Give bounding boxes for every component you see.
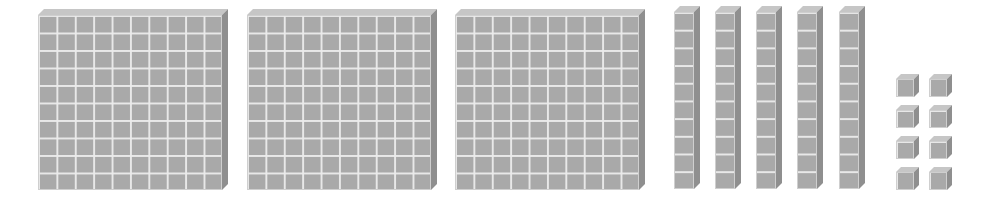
ten-rod-3-front-face xyxy=(756,12,776,189)
hundred-flat-2 xyxy=(247,9,437,190)
ten-rod-3 xyxy=(756,6,782,189)
one-unit-2-front-face xyxy=(929,79,947,97)
ten-rod-4-front-face xyxy=(797,12,817,189)
hundred-flat-3 xyxy=(455,9,645,190)
one-unit-8-front-face xyxy=(929,172,947,190)
hundred-flat-3-front-face xyxy=(455,15,639,190)
ten-rod-4-side-face xyxy=(817,6,823,189)
hundred-flat-1-side-face xyxy=(222,9,228,190)
one-unit-7 xyxy=(896,167,919,190)
hundred-flat-2-front-face xyxy=(247,15,431,190)
ten-rod-5 xyxy=(839,6,865,189)
ten-rod-5-side-face xyxy=(859,6,865,189)
ten-rod-5-front-face xyxy=(839,12,859,189)
one-unit-6 xyxy=(929,136,952,159)
one-unit-8 xyxy=(929,167,952,190)
ten-rod-3-side-face xyxy=(776,6,782,189)
one-unit-5 xyxy=(896,136,919,159)
hundred-flat-2-side-face xyxy=(431,9,437,190)
ten-rod-2 xyxy=(715,6,741,189)
hundred-flat-1 xyxy=(38,9,228,190)
one-unit-3 xyxy=(896,105,919,128)
ten-rod-4 xyxy=(797,6,823,189)
ten-rod-2-front-face xyxy=(715,12,735,189)
one-unit-1 xyxy=(896,74,919,97)
ten-rod-2-side-face xyxy=(735,6,741,189)
one-unit-4 xyxy=(929,105,952,128)
hundred-flat-3-side-face xyxy=(639,9,645,190)
one-unit-4-front-face xyxy=(929,110,947,128)
ten-rod-1 xyxy=(674,6,700,189)
one-unit-3-front-face xyxy=(896,110,914,128)
ten-rod-1-front-face xyxy=(674,12,694,189)
hundred-flat-1-front-face xyxy=(38,15,222,190)
one-unit-2 xyxy=(929,74,952,97)
one-unit-7-front-face xyxy=(896,172,914,190)
one-unit-6-front-face xyxy=(929,141,947,159)
one-unit-1-front-face xyxy=(896,79,914,97)
one-unit-5-front-face xyxy=(896,141,914,159)
ten-rod-1-side-face xyxy=(694,6,700,189)
